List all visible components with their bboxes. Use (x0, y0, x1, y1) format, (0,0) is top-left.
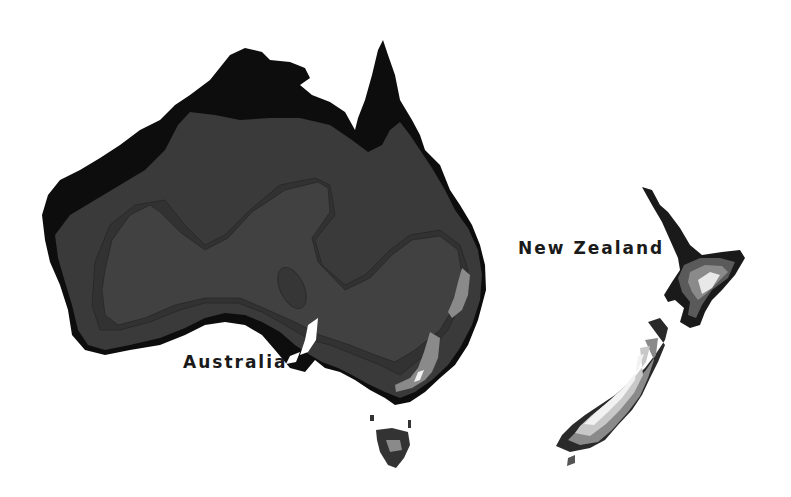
island (408, 420, 411, 428)
map-canvas: Australia New Zealand (0, 0, 791, 497)
label-australia: Australia (183, 352, 288, 372)
south-island (556, 318, 668, 452)
tasmania (370, 415, 411, 468)
island (370, 415, 374, 421)
australia-landmass (42, 40, 486, 405)
label-new-zealand: New Zealand (518, 238, 664, 258)
stewart-island (567, 455, 575, 466)
new-zealand-landmass (556, 187, 745, 466)
map-svg (0, 0, 791, 497)
